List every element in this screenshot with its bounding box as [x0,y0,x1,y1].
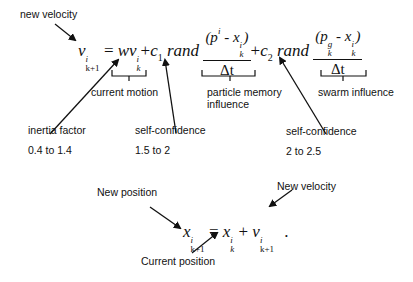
label-self-confidence-1-range: 1.5 to 2 [135,144,170,156]
label-self-confidence-1: self-confidence [135,124,206,136]
label-new-velocity: new velocity [20,8,77,20]
label-new-velocity-bottom: New velocity [277,180,336,192]
arrow-new-velocity-bottom [270,190,292,206]
label-self-confidence-2-range: 2 to 2.5 [286,145,321,157]
arrow-new-position [150,207,180,228]
label-particle-memory: particle memory [207,86,282,98]
label-particle-memory-influence: influence [207,98,249,110]
label-swarm-influence: swarm influence [318,86,394,98]
label-inertia-range: 0.4 to 1.4 [28,144,72,156]
arrow-new-velocity [55,24,75,40]
position-equation: xik+1 = xik + vik+1 . [183,222,288,254]
label-current-motion: current motion [91,86,158,98]
label-self-confidence-2: self-confidence [286,125,357,137]
velocity-equation: vik+1 = wvik+c1 rand (pi - xik) Δt +c2 r… [78,26,362,79]
label-current-position: Current position [141,255,215,267]
label-inertia-factor: inertia factor [28,124,86,136]
label-new-position: New position [97,186,157,198]
